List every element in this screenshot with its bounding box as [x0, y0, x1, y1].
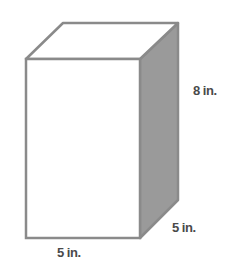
rectangular-prism-diagram: 8 in. 5 in. 5 in. — [0, 0, 251, 274]
prism-front-face — [26, 59, 140, 238]
width-label: 5 in. — [57, 245, 81, 260]
height-label: 8 in. — [193, 83, 217, 98]
depth-label: 5 in. — [172, 220, 196, 235]
